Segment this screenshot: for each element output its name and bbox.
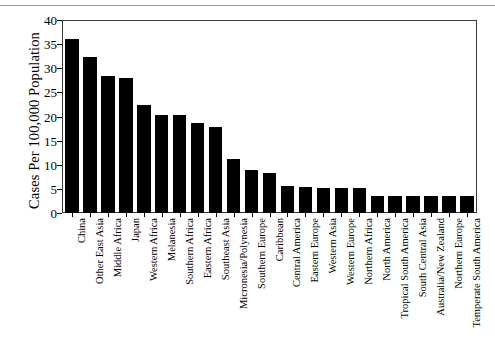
- x-axis-category-label: Caribbean: [274, 218, 285, 261]
- y-axis-tick-labels: 0510152025303540: [30, 14, 57, 214]
- x-axis-category-label: Western Europe: [345, 218, 356, 285]
- bar: [83, 57, 96, 213]
- x-axis-category-label: Northern Europe: [453, 218, 464, 289]
- y-axis-tick-label: 0: [30, 207, 57, 220]
- x-axis-category-label: Australia/New Zealand: [435, 218, 446, 316]
- bar: [137, 105, 150, 213]
- bar: [388, 196, 401, 213]
- bar: [119, 78, 132, 213]
- x-axis-tick-mark: [180, 213, 181, 217]
- x-axis-tick-mark: [252, 213, 253, 217]
- x-axis-category-label: Melanesia: [166, 218, 177, 261]
- y-axis-tick-mark: [57, 213, 62, 214]
- x-axis-category-label: Temperate South America: [471, 218, 482, 327]
- x-axis-tick-mark: [413, 213, 414, 217]
- bar: [317, 188, 330, 213]
- x-axis-tick-mark: [287, 213, 288, 217]
- bar-series: [63, 20, 476, 213]
- y-axis-tick-label: 40: [30, 14, 57, 27]
- bar: [245, 170, 258, 213]
- bar: [406, 196, 419, 213]
- y-axis-tick-label: 25: [30, 86, 57, 99]
- x-axis-tick-mark: [467, 213, 468, 217]
- y-axis-tick-label: 10: [30, 159, 57, 172]
- bar: [155, 115, 168, 213]
- x-axis-category-label: China: [76, 218, 87, 243]
- bar: [353, 188, 366, 213]
- x-axis-tick-mark: [72, 213, 73, 217]
- x-axis-category-label: Central America: [291, 218, 302, 287]
- x-axis-category-label: Western Africa: [148, 218, 159, 281]
- bar: [424, 196, 437, 213]
- x-axis-tick-mark: [162, 213, 163, 217]
- x-axis-tick-mark: [395, 213, 396, 217]
- x-axis-category-label: Southern Africa: [184, 218, 195, 285]
- x-axis-tick-mark: [234, 213, 235, 217]
- x-axis-category-label: Southern Europe: [256, 218, 267, 289]
- x-axis-category-label: Eastern Europe: [309, 218, 320, 282]
- scan-artifact-line: [0, 5, 495, 6]
- x-axis-category-label: North America: [381, 218, 392, 281]
- x-axis-tick-mark: [359, 213, 360, 217]
- x-axis-category-label: Other East Asia: [94, 218, 105, 284]
- bar-chart-figure: Cases Per 100,000 Population 05101520253…: [0, 0, 495, 345]
- bar: [442, 196, 455, 213]
- x-axis-category-label: Northern Africa: [363, 218, 374, 285]
- x-axis-tick-mark: [144, 213, 145, 217]
- x-axis-category-labels: ChinaOther East AsiaMiddle AfricaJapanWe…: [63, 218, 483, 343]
- x-axis-tick-mark: [270, 213, 271, 217]
- x-axis-tick-mark: [90, 213, 91, 217]
- y-axis-tick-label: 30: [30, 62, 57, 75]
- x-axis-tick-mark: [449, 213, 450, 217]
- x-axis-tick-mark: [126, 213, 127, 217]
- x-axis-category-label: Middle Africa: [112, 218, 123, 277]
- x-axis-tick-mark: [108, 213, 109, 217]
- x-axis-tick-mark: [431, 213, 432, 217]
- x-axis-category-label: Western Asia: [327, 218, 338, 273]
- x-axis-tick-marks: [63, 213, 476, 217]
- bar: [299, 187, 312, 213]
- bar: [227, 159, 240, 213]
- bar: [191, 123, 204, 213]
- y-axis-tick-label: 35: [30, 38, 57, 51]
- bar: [173, 115, 186, 213]
- y-axis-tick-label: 15: [30, 135, 57, 148]
- bar: [281, 186, 294, 213]
- x-axis-tick-mark: [198, 213, 199, 217]
- bar: [371, 196, 384, 213]
- x-axis-category-label: Japan: [130, 218, 141, 242]
- x-axis-tick-mark: [216, 213, 217, 217]
- x-axis-tick-mark: [305, 213, 306, 217]
- x-axis-category-label: South Central Asia: [417, 218, 428, 297]
- bar: [263, 173, 276, 213]
- bar: [335, 188, 348, 213]
- y-axis-tick-label: 20: [30, 111, 57, 124]
- bar: [209, 127, 222, 213]
- x-axis-tick-mark: [377, 213, 378, 217]
- x-axis-category-label: Eastern Africa: [202, 218, 213, 278]
- y-axis-tick-label: 5: [30, 183, 57, 196]
- x-axis-category-label: Tropical South America: [399, 218, 410, 319]
- x-axis-tick-mark: [341, 213, 342, 217]
- x-axis-category-label: Southeast Asia: [220, 218, 231, 280]
- x-axis-category-label: Micronesia/Polynesia: [238, 218, 249, 309]
- bar: [101, 76, 114, 214]
- bar: [460, 196, 473, 213]
- bar: [65, 39, 78, 213]
- x-axis-tick-mark: [323, 213, 324, 217]
